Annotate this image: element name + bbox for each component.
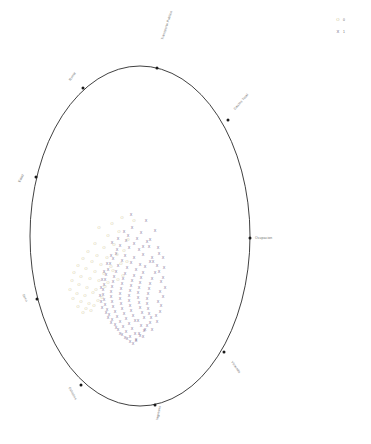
- data-point: O: [84, 266, 87, 271]
- axis-tick-dot: [227, 119, 230, 122]
- data-point: X: [144, 327, 147, 332]
- data-point: X: [123, 229, 126, 234]
- data-point: X: [130, 260, 133, 265]
- data-point: X: [139, 333, 142, 338]
- radial-scatter-plot: Transporte PublicoRentaGastos TotalEdadO…: [0, 0, 371, 444]
- data-point: O: [97, 225, 100, 230]
- axis-tick-label: Sexo: [21, 293, 28, 302]
- data-point: O: [71, 296, 74, 301]
- data-point: X: [99, 293, 102, 298]
- axis-tick-dot: [35, 176, 38, 179]
- data-point: O: [81, 310, 84, 315]
- data-point: X: [106, 261, 109, 266]
- data-point: X: [151, 327, 154, 332]
- legend-key-icon: O: [335, 18, 341, 24]
- data-point: X: [121, 258, 124, 263]
- data-point: X: [129, 339, 132, 344]
- data-point: X: [117, 236, 120, 241]
- data-point: O: [102, 245, 105, 250]
- data-point: O: [125, 259, 128, 264]
- data-point: O: [106, 233, 109, 238]
- data-point: X: [162, 255, 165, 260]
- axis-tick-dot: [223, 351, 226, 354]
- data-point: O: [90, 259, 93, 264]
- data-point: X: [101, 305, 104, 310]
- data-point: O: [79, 299, 82, 304]
- data-point: X: [117, 263, 120, 268]
- data-point: X: [154, 270, 157, 275]
- data-point: X: [126, 265, 129, 270]
- legend-item-1[interactable]: X1: [335, 29, 345, 36]
- axis-tick-label: Edad: [17, 174, 24, 183]
- data-point: O: [72, 270, 75, 275]
- data-point: X: [135, 267, 138, 272]
- data-point: X: [155, 313, 158, 318]
- data-points-group: OOOOOOOOOOOOOOOOOOOOOOOOOOOOOOOOOOOOOOOO…: [68, 212, 166, 346]
- data-point: X: [110, 253, 113, 258]
- data-point: X: [100, 299, 103, 304]
- data-point: X: [164, 285, 167, 290]
- data-point: O: [116, 277, 119, 282]
- axis-markers-group: Transporte PublicoRentaGastos TotalEdadO…: [17, 10, 272, 420]
- legend-item-label: 0: [343, 19, 345, 22]
- data-point: O: [95, 253, 98, 258]
- data-point: X: [116, 247, 119, 252]
- data-point: X: [142, 334, 145, 339]
- data-point: X: [142, 252, 145, 257]
- data-point: O: [76, 304, 79, 309]
- data-point: O: [81, 256, 84, 261]
- data-point: X: [119, 331, 122, 336]
- data-point: O: [120, 215, 123, 220]
- data-point: O: [99, 262, 102, 267]
- axis-tick-dot: [36, 298, 39, 301]
- data-point: X: [139, 262, 142, 267]
- data-point: X: [125, 329, 128, 334]
- data-point: X: [162, 294, 165, 299]
- data-point: X: [163, 265, 166, 270]
- axis-tick-dot: [82, 87, 85, 90]
- data-point: X: [143, 315, 146, 320]
- axis-tick-label: Renta: [68, 71, 77, 81]
- data-point: X: [128, 245, 131, 250]
- axis-tick-label: Ocupacion: [255, 236, 272, 240]
- data-point: O: [76, 263, 79, 268]
- data-point: X: [130, 212, 133, 217]
- data-point: X: [149, 237, 152, 242]
- data-point: X: [158, 269, 161, 274]
- axis-tick-label: Ingresos: [155, 406, 162, 421]
- data-point: X: [119, 243, 122, 248]
- data-point: X: [109, 261, 112, 266]
- legend-item-0[interactable]: O0: [335, 17, 345, 24]
- data-point: O: [70, 278, 73, 283]
- axis-tick-dot: [249, 237, 252, 240]
- axis-tick-dot: [156, 67, 159, 70]
- data-point: X: [134, 331, 137, 336]
- legend-key-icon: X: [335, 30, 341, 36]
- data-point: X: [103, 269, 106, 274]
- data-point: X: [110, 320, 113, 325]
- data-point: X: [107, 315, 110, 320]
- data-point: X: [162, 275, 165, 280]
- data-point: X: [158, 251, 161, 256]
- axis-tick-label: Gastos Total: [233, 93, 250, 111]
- data-point: O: [93, 241, 96, 246]
- data-point: X: [148, 244, 151, 249]
- data-point: O: [132, 218, 135, 223]
- data-point: X: [124, 253, 127, 258]
- data-point: X: [142, 244, 145, 249]
- legend-item-label: 1: [343, 31, 345, 34]
- data-point: O: [117, 229, 120, 234]
- data-point: X: [157, 245, 160, 250]
- data-point: O: [93, 269, 96, 274]
- axis-tick-label: Transporte Publico: [160, 10, 173, 40]
- data-point: X: [105, 310, 108, 315]
- data-point: X: [156, 319, 159, 324]
- data-point: X: [160, 303, 163, 308]
- axis-tick-label: Estudios: [68, 386, 78, 400]
- data-point: X: [111, 240, 114, 245]
- data-point: X: [100, 285, 103, 290]
- data-point: O: [92, 303, 95, 308]
- data-point: O: [83, 293, 86, 298]
- data-point: X: [115, 325, 118, 330]
- data-point: X: [149, 320, 152, 325]
